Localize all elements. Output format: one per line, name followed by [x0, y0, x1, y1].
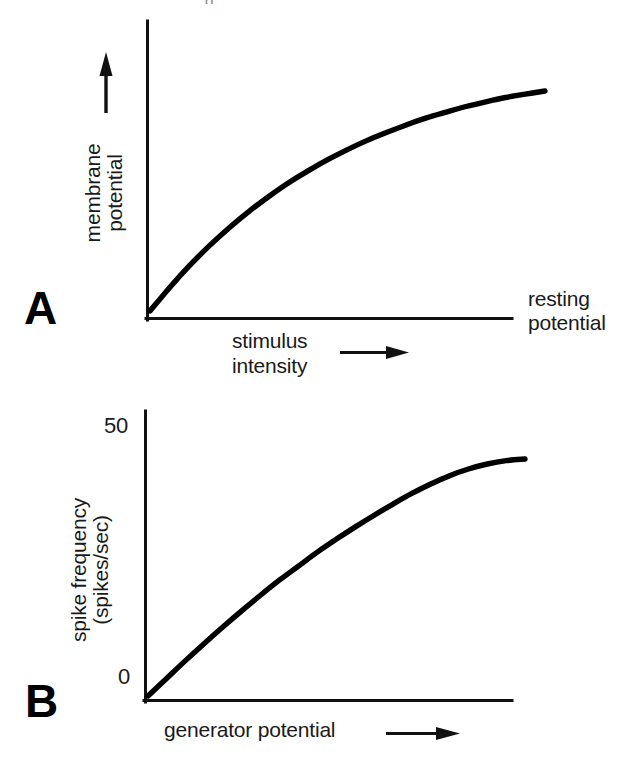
panel-a-axes: [146, 21, 512, 320]
panel-b-y-tick-top: 50: [104, 414, 128, 437]
panel-letter-b: B: [25, 678, 58, 724]
panel-a-resting-potential-label-line2: potential: [528, 312, 606, 334]
panel-a-curve: [150, 91, 545, 311]
panel-letter-a: A: [24, 285, 57, 331]
panel-a-y-axis-label-line2: potential: [104, 128, 126, 258]
panel-b-axes: [144, 411, 512, 702]
panel-b-y-tick-bottom: 0: [118, 665, 130, 688]
panel-b-y-axis-label-line1: spike frequency: [68, 480, 90, 660]
panel-b-curve: [148, 459, 525, 696]
right-arrow-icon-b: [386, 727, 460, 740]
panel-a-x-axis-label-line2: intensity: [232, 355, 307, 377]
cropped-title-fragment: o: [205, 0, 465, 4]
up-arrow-icon-a: [100, 52, 113, 113]
panel-a-y-axis-label-line1: membrane: [82, 128, 104, 258]
panel-b-x-axis-label: generator potential: [164, 719, 335, 741]
right-arrow-icon-a: [340, 346, 409, 359]
panel-b-y-axis-label-line2: (spikes/sec): [90, 480, 112, 660]
panel-a-x-axis-label-line1: stimulus: [232, 330, 307, 352]
panel-a-resting-potential-label-line1: resting: [528, 288, 590, 310]
figure-root: o: [0, 0, 639, 770]
